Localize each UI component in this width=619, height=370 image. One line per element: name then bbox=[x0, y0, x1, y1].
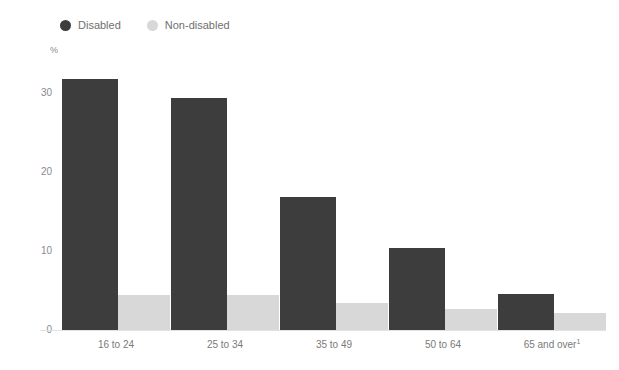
bar-disabled[interactable] bbox=[62, 79, 118, 330]
bar-disabled[interactable] bbox=[171, 98, 227, 330]
plot-area: 0102030 16 to 2425 to 3435 to 4950 to 64… bbox=[0, 0, 619, 370]
bar-chart: Disabled Non-disabled % 0102030 16 to 24… bbox=[0, 0, 619, 370]
x-axis-tick-label: 25 to 34 bbox=[207, 338, 243, 351]
x-axis-tick-label: 65 and over1 bbox=[524, 338, 581, 351]
x-axis-tick-label: 16 to 24 bbox=[98, 338, 134, 351]
bar-non-disabled[interactable] bbox=[336, 303, 388, 330]
bar-non-disabled[interactable] bbox=[554, 313, 606, 330]
bar-disabled[interactable] bbox=[389, 248, 445, 330]
x-axis-baseline bbox=[40, 330, 606, 331]
bars-layer bbox=[0, 0, 619, 330]
bar-non-disabled[interactable] bbox=[118, 295, 170, 330]
bar-disabled[interactable] bbox=[280, 197, 336, 330]
x-axis-tick-label: 50 to 64 bbox=[425, 338, 461, 351]
footnote-marker: 1 bbox=[576, 338, 580, 345]
x-axis-tick-label: 35 to 49 bbox=[316, 338, 352, 351]
bar-non-disabled[interactable] bbox=[227, 295, 279, 330]
bar-non-disabled[interactable] bbox=[445, 309, 497, 330]
bar-disabled[interactable] bbox=[498, 294, 554, 330]
